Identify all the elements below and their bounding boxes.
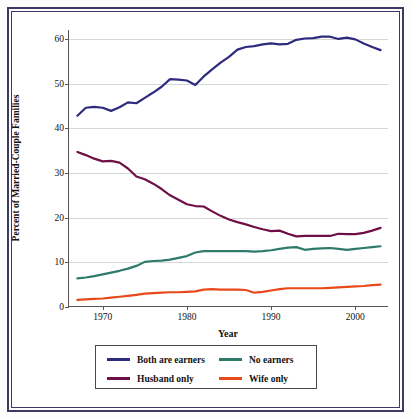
- y-tick-label: 30: [55, 168, 65, 178]
- y-tick-label: 60: [55, 34, 65, 44]
- series-line-both-are-earners: [77, 37, 380, 116]
- legend-swatch-icon: [107, 358, 130, 361]
- y-tick-mark: [65, 307, 69, 308]
- chart-legend: Both are earners No earners Husband only…: [95, 345, 317, 389]
- x-tick-label: 1980: [177, 312, 196, 322]
- legend-item-wife-only: Wife only: [213, 374, 316, 384]
- y-tick-label: 0: [59, 302, 64, 312]
- legend-label: Both are earners: [137, 355, 205, 365]
- series-lines: [69, 30, 389, 307]
- legend-item-husband-only: Husband only: [96, 374, 213, 384]
- y-tick-label: 10: [55, 257, 65, 267]
- y-tick-label: 20: [55, 213, 65, 223]
- legend-swatch-icon: [107, 377, 130, 380]
- legend-row: Both are earners No earners: [96, 350, 316, 369]
- figure: Percent of Married-Couple Families 01020…: [12, 12, 399, 407]
- legend-label: No earners: [249, 355, 294, 365]
- y-tick-label: 50: [55, 79, 65, 89]
- x-tick-label: 1970: [93, 312, 112, 322]
- plot-area: 0102030405060 1970198019902000: [68, 30, 388, 307]
- legend-row: Husband only Wife only: [96, 369, 316, 388]
- legend-item-both-are-earners: Both are earners: [96, 355, 213, 365]
- legend-item-no-earners: No earners: [213, 355, 316, 365]
- legend-swatch-icon: [219, 358, 242, 361]
- series-line-no-earners: [77, 246, 380, 278]
- series-line-husband-only: [77, 152, 380, 236]
- legend-swatch-icon: [219, 377, 242, 380]
- legend-label: Wife only: [249, 374, 288, 384]
- chart-page: Percent of Married-Couple Families 01020…: [0, 0, 411, 419]
- y-axis-title: Percent of Married-Couple Families: [11, 95, 21, 242]
- series-line-wife-only: [77, 285, 380, 300]
- x-tick-label: 2000: [346, 312, 365, 322]
- y-tick-label: 40: [55, 123, 65, 133]
- x-axis-title: Year: [218, 328, 238, 339]
- x-tick-label: 1990: [262, 312, 281, 322]
- legend-label: Husband only: [137, 374, 194, 384]
